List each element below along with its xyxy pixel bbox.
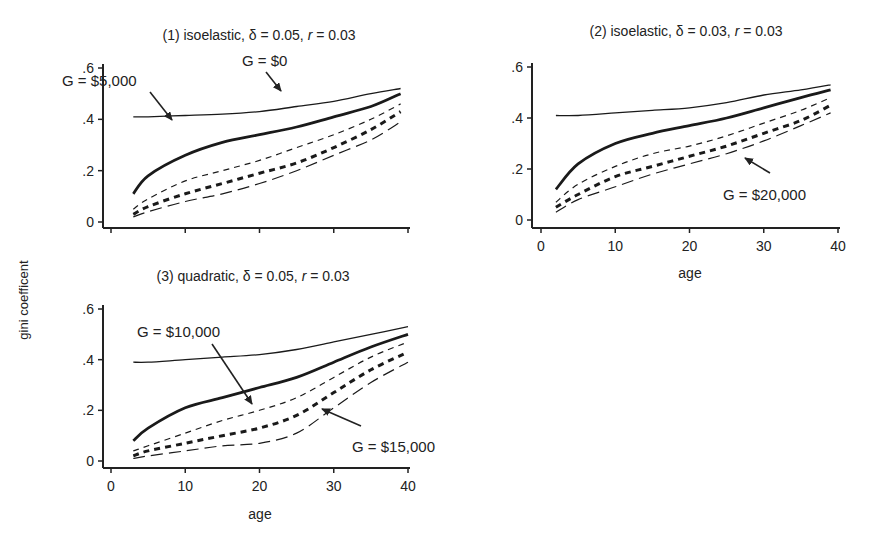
annotation-label: G = $5,000 xyxy=(62,72,137,89)
y-tick-label: 0 xyxy=(515,212,523,228)
annotation-label: G = $15,000 xyxy=(352,438,435,455)
y-tick-label: .4 xyxy=(82,352,94,368)
annotation-arrow-icon xyxy=(745,158,770,173)
figure: gini coefficent (1) isoelastic, δ = 0.05… xyxy=(0,0,876,553)
series-line xyxy=(133,112,400,215)
y-tick-label: .6 xyxy=(511,59,523,75)
x-tick-label: 0 xyxy=(107,478,115,494)
series-line xyxy=(133,342,408,451)
x-tick-label: 10 xyxy=(607,238,623,254)
series-line xyxy=(133,334,408,440)
series-line xyxy=(133,104,400,209)
x-tick-label: 30 xyxy=(326,478,342,494)
x-tick-label: 0 xyxy=(537,238,545,254)
annotation-arrow-icon xyxy=(322,409,361,426)
y-tick-label: .6 xyxy=(82,301,94,317)
x-tick-label: 40 xyxy=(830,238,846,254)
annotation-arrow-icon xyxy=(266,72,281,91)
panel-3: (3) quadratic, δ = 0.05, r = 0.03 0.2.4.… xyxy=(82,268,435,522)
panel-2-title: (2) isoelastic, δ = 0.03, r = 0.03 xyxy=(589,23,782,39)
panel-3-title: (3) quadratic, δ = 0.05, r = 0.03 xyxy=(156,268,349,284)
panel-2-axes: 0.2.4.6010203040 xyxy=(511,59,846,254)
x-tick-label: 40 xyxy=(400,478,416,494)
panel-1-curves xyxy=(133,89,400,217)
panel-1-annotations: G = $5,000G = $0 xyxy=(62,52,287,120)
x-tick-label: 10 xyxy=(177,478,193,494)
y-axis-label: gini coefficent xyxy=(16,260,31,340)
series-line xyxy=(133,94,400,194)
y-tick-label: .2 xyxy=(82,163,94,179)
panel-2-x-axis-label: age xyxy=(678,265,702,281)
annotation-label: G = $20,000 xyxy=(723,186,806,203)
annotation-label: G = $10,000 xyxy=(137,323,220,340)
panel-1-title: (1) isoelastic, δ = 0.05, r = 0.03 xyxy=(162,27,355,43)
y-tick-label: .4 xyxy=(82,111,94,127)
y-tick-label: 0 xyxy=(86,214,94,230)
annotation-label: G = $0 xyxy=(242,52,287,69)
series-line xyxy=(133,122,400,217)
panel-3-x-axis-label: age xyxy=(248,506,272,522)
panel-2-annotations: G = $20,000 xyxy=(723,158,806,203)
panel-3-axes: 0.2.4.6010203040 xyxy=(82,301,416,494)
panel-3-annotations: G = $10,000G = $15,000 xyxy=(137,323,435,455)
y-tick-label: .2 xyxy=(511,161,523,177)
panel-2: (2) isoelastic, δ = 0.03, r = 0.03 0.2.4… xyxy=(511,23,846,281)
panel-1: (1) isoelastic, δ = 0.05, r = 0.03 0.2.4… xyxy=(62,27,410,233)
x-tick-label: 20 xyxy=(252,478,268,494)
series-line xyxy=(133,89,400,117)
x-tick-label: 30 xyxy=(756,238,772,254)
y-tick-label: 0 xyxy=(86,453,94,469)
y-tick-label: .2 xyxy=(82,402,94,418)
x-tick-label: 20 xyxy=(682,238,698,254)
y-tick-label: .4 xyxy=(511,110,523,126)
